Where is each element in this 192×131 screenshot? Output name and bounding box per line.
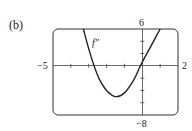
plot-area	[0, 0, 192, 131]
x-max-label: 2	[182, 60, 187, 71]
curve-label: f″	[92, 37, 99, 48]
plot-frame	[53, 29, 178, 115]
y-max-label: 6	[139, 17, 144, 28]
x-min-label: −5	[37, 60, 48, 71]
y-min-label: −8	[136, 118, 147, 129]
